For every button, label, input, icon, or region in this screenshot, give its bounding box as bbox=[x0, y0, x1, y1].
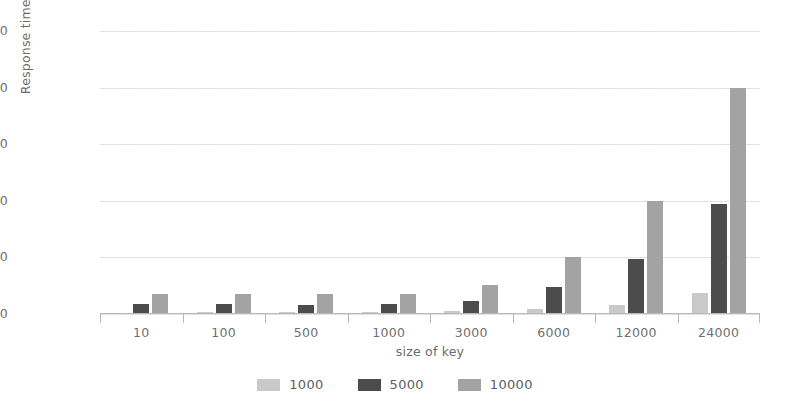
category-tick-label: 1000 bbox=[348, 325, 431, 340]
category-tick-label: 100 bbox=[183, 325, 266, 340]
category-tick-label: 12000 bbox=[595, 325, 678, 340]
bar-chart: Response time (ms) 025050075010001250 10… bbox=[0, 0, 790, 410]
category-tick bbox=[348, 314, 431, 323]
legend-label: 5000 bbox=[390, 377, 424, 392]
legend-item[interactable]: 1000 bbox=[257, 377, 323, 392]
bar bbox=[730, 88, 746, 314]
category-tick bbox=[595, 314, 678, 323]
category-tick bbox=[265, 314, 348, 323]
legend-swatch-icon bbox=[257, 379, 280, 391]
bar bbox=[152, 294, 168, 314]
bar-group bbox=[513, 31, 596, 314]
y-axis-tick-label: 1250 bbox=[0, 23, 8, 38]
category-tick-label: 6000 bbox=[513, 325, 596, 340]
category-tick-labels: 101005001000300060001200024000 bbox=[100, 325, 760, 340]
y-axis-tick-label: 500 bbox=[0, 193, 8, 208]
category-tick-label: 24000 bbox=[678, 325, 761, 340]
bar bbox=[692, 293, 708, 315]
bar-group bbox=[100, 31, 183, 314]
bar-group bbox=[430, 31, 513, 314]
legend-swatch-icon bbox=[458, 379, 481, 391]
y-axis-tick-label: 1000 bbox=[0, 80, 8, 95]
bar bbox=[546, 287, 562, 314]
x-axis-title: size of key bbox=[100, 344, 760, 359]
bar-group bbox=[595, 31, 678, 314]
category-tick bbox=[430, 314, 513, 323]
bar-groups bbox=[100, 31, 760, 314]
bar bbox=[628, 259, 644, 314]
chart-legend: 1000500010000 bbox=[0, 377, 790, 392]
bar-group bbox=[265, 31, 348, 314]
legend-item[interactable]: 10000 bbox=[458, 377, 533, 392]
category-tick bbox=[513, 314, 596, 323]
category-tick-marks bbox=[100, 314, 760, 323]
category-tick-label: 3000 bbox=[430, 325, 513, 340]
bar bbox=[482, 285, 498, 314]
bar bbox=[235, 294, 251, 314]
y-axis-tick-label: 0 bbox=[0, 306, 8, 321]
bar-group bbox=[348, 31, 431, 314]
category-tick bbox=[100, 314, 183, 323]
category-tick-label: 500 bbox=[265, 325, 348, 340]
legend-label: 10000 bbox=[490, 377, 533, 392]
y-axis-title: Response time (ms) bbox=[18, 0, 38, 120]
category-tick-label: 10 bbox=[100, 325, 183, 340]
legend-label: 1000 bbox=[289, 377, 323, 392]
bar-group bbox=[678, 31, 761, 314]
y-axis-tick-label: 750 bbox=[0, 136, 8, 151]
category-tick bbox=[678, 314, 761, 323]
y-axis-tick-label: 250 bbox=[0, 249, 8, 264]
legend-item[interactable]: 5000 bbox=[358, 377, 424, 392]
bar bbox=[317, 294, 333, 314]
legend-swatch-icon bbox=[358, 379, 381, 391]
bar-group bbox=[183, 31, 266, 314]
bar bbox=[711, 204, 727, 314]
plot-area: 025050075010001250 bbox=[100, 31, 760, 314]
bar bbox=[647, 201, 663, 314]
bar bbox=[400, 294, 416, 314]
bar bbox=[565, 257, 581, 314]
category-tick bbox=[183, 314, 266, 323]
